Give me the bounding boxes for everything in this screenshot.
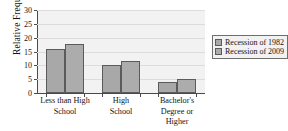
bar <box>177 79 196 93</box>
y-tick-mark <box>34 38 37 39</box>
legend-label: Recession of 1982 <box>225 38 284 47</box>
y-tick-mark <box>34 65 37 66</box>
bar <box>102 65 121 93</box>
bar <box>46 49 65 93</box>
bar <box>158 82 177 93</box>
bar-chart-figure: Relative Frequency 051015202530 Less tha… <box>0 0 288 131</box>
x-category-label-line: Degree or <box>137 107 217 118</box>
y-tick-mark <box>34 10 37 11</box>
legend-item: Recession of 2009 <box>215 47 284 56</box>
y-tick-label: 15 <box>24 47 32 56</box>
y-tick-mark <box>34 24 37 25</box>
x-category-label: Bachelor'sDegree orHigher <box>137 96 217 128</box>
legend-label: Recession of 2009 <box>225 47 284 56</box>
y-tick-label: 20 <box>24 33 32 42</box>
legend-swatch-icon <box>215 39 222 46</box>
y-tick-label: 30 <box>24 6 32 15</box>
bar <box>121 61 140 93</box>
bar <box>65 44 84 93</box>
y-tick-label: 5 <box>28 75 32 84</box>
y-axis-title: Relative Frequency <box>12 0 22 60</box>
legend-rows: Recession of 1982Recession of 2009 <box>215 38 284 56</box>
x-axis-line <box>37 93 205 94</box>
gridline <box>37 38 205 39</box>
y-tick-mark <box>34 52 37 53</box>
x-category-label-line: Bachelor's <box>137 96 217 107</box>
chart-legend: Recession of 1982Recession of 2009 <box>212 35 288 59</box>
x-category-label-line: Higher <box>137 117 217 128</box>
y-tick-mark <box>34 79 37 80</box>
y-tick-label: 10 <box>24 61 32 70</box>
y-tick-mark <box>34 93 37 94</box>
plot-area: 051015202530 <box>37 10 205 94</box>
gridline <box>37 10 205 11</box>
legend-swatch-icon <box>215 48 222 55</box>
gridline <box>37 24 205 25</box>
y-tick-label: 25 <box>24 19 32 28</box>
legend-item: Recession of 1982 <box>215 38 284 47</box>
